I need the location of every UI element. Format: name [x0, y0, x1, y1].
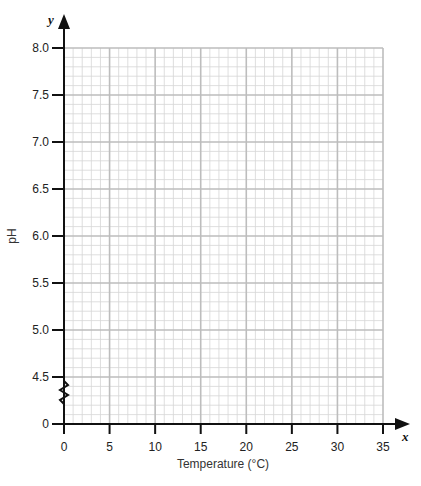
x-tick-label: 10 [148, 440, 162, 454]
y-axis-arrow-icon [58, 14, 70, 29]
x-tick-label: 25 [285, 440, 299, 454]
y-tick-label: 5.5 [32, 276, 49, 290]
y-tick-label: 0 [42, 417, 49, 431]
x-tick-label: 30 [331, 440, 345, 454]
x-tick-label: 20 [240, 440, 254, 454]
y-axis-ticks: 04.55.05.56.06.57.07.58.0 [32, 41, 64, 431]
y-tick-label: 7.5 [32, 88, 49, 102]
axes [54, 14, 410, 434]
x-tick-label: 5 [106, 440, 113, 454]
y-axis-variable-label: y [46, 12, 54, 27]
x-tick-label: 35 [376, 440, 390, 454]
x-tick-label: 15 [194, 440, 208, 454]
x-axis-variable-label: x [401, 429, 409, 444]
y-tick-label: 5.0 [32, 323, 49, 337]
y-tick-label: 6.0 [32, 229, 49, 243]
x-axis-title: Temperature (°C) [177, 457, 269, 471]
y-tick-label: 8.0 [32, 41, 49, 55]
graph-paper-chart: 05101520253035 04.55.05.56.06.57.07.58.0… [0, 0, 421, 486]
y-tick-label: 4.5 [32, 370, 49, 384]
y-tick-label: 6.5 [32, 182, 49, 196]
y-axis-title: pH [5, 228, 19, 243]
y-tick-label: 7.0 [32, 135, 49, 149]
x-axis-ticks: 05101520253035 [61, 424, 390, 454]
x-tick-label: 0 [61, 440, 68, 454]
